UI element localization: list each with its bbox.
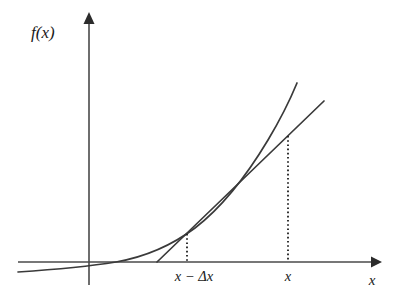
function-curve	[18, 83, 297, 272]
tick-label-x-minus-delta-x: x − Δx	[174, 268, 214, 284]
tick-label-x: x	[284, 268, 292, 284]
figure-canvas: f(x) x x − Δx x	[0, 0, 400, 295]
x-axis-label: x	[368, 272, 376, 288]
derivative-diagram: f(x) x x − Δx x	[0, 0, 400, 295]
secant-line	[157, 101, 324, 262]
x-axis-arrowhead-icon	[371, 257, 382, 268]
y-axis-arrowhead-icon	[84, 12, 95, 24]
y-axis-label: f(x)	[31, 23, 55, 42]
